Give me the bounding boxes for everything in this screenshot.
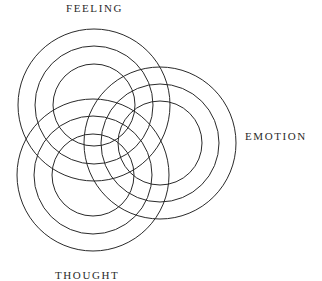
feeling-label: FEELING <box>66 3 123 14</box>
thought-label: THOUGHT <box>55 270 119 281</box>
thought-circles <box>17 99 169 251</box>
emotion-label: EMOTION <box>245 131 307 142</box>
thought-circle-outer <box>17 99 169 251</box>
